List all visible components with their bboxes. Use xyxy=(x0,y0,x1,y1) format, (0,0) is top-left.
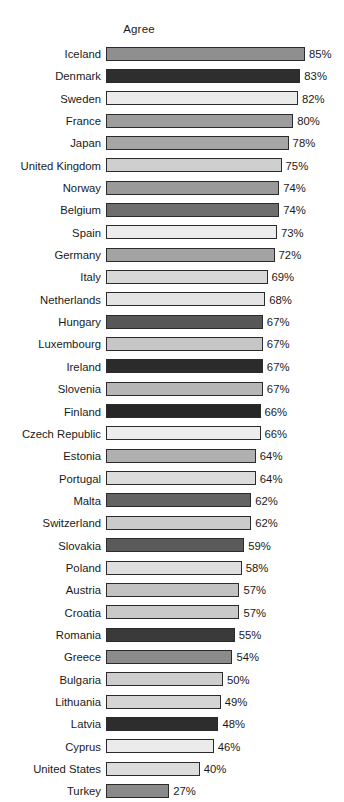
bar-value-label: 57% xyxy=(239,579,266,601)
bar-category-label: Czech Republic xyxy=(0,423,101,445)
bar-row: Hungary67% xyxy=(0,311,344,333)
bar-track xyxy=(106,762,200,776)
bar-fill xyxy=(106,583,239,597)
bar-track xyxy=(106,203,279,217)
bar-value-label: 58% xyxy=(242,557,269,579)
bar-row: Portugal64% xyxy=(0,468,344,490)
bar-row: Iceland85% xyxy=(0,43,344,65)
bar-fill xyxy=(106,181,279,195)
bar-fill xyxy=(106,203,279,217)
bar-category-label: Switzerland xyxy=(0,512,101,534)
bar-value-label: 46% xyxy=(214,736,241,758)
bar-category-label: Finland xyxy=(0,401,101,423)
bar-value-label: 64% xyxy=(256,468,283,490)
bar-value-label: 48% xyxy=(218,713,245,735)
bar-category-label: Sweden xyxy=(0,88,101,110)
bar-track xyxy=(106,628,235,642)
bar-fill xyxy=(106,672,223,686)
bar-value-label: 72% xyxy=(275,244,302,266)
bar-category-label: Italy xyxy=(0,266,101,288)
bar-category-label: Germany xyxy=(0,244,101,266)
bar-fill xyxy=(106,471,256,485)
bar-fill xyxy=(106,382,263,396)
bar-track xyxy=(106,181,279,195)
bar-track xyxy=(106,359,263,373)
bar-row: Ireland67% xyxy=(0,356,344,378)
bar-value-label: 78% xyxy=(289,132,316,154)
bar-value-label: 74% xyxy=(279,177,306,199)
bar-row: Japan78% xyxy=(0,132,344,154)
bar-category-label: Hungary xyxy=(0,311,101,333)
bar-row: Switzerland62% xyxy=(0,512,344,534)
bar-track xyxy=(106,672,223,686)
bar-value-label: 67% xyxy=(263,378,290,400)
bar-category-label: Poland xyxy=(0,557,101,579)
bar-fill xyxy=(106,650,232,664)
bar-row: Netherlands68% xyxy=(0,289,344,311)
bar-track xyxy=(106,717,218,731)
bar-value-label: 67% xyxy=(263,333,290,355)
bar-fill xyxy=(106,47,305,61)
bar-value-label: 62% xyxy=(251,490,278,512)
bar-category-label: Greece xyxy=(0,646,101,668)
bar-value-label: 66% xyxy=(261,423,288,445)
bar-category-label: Spain xyxy=(0,222,101,244)
chart-plot-area: Iceland85%Denmark83%Sweden82%France80%Ja… xyxy=(0,43,344,802)
bar-value-label: 66% xyxy=(261,401,288,423)
bar-value-label: 40% xyxy=(200,758,227,780)
bar-category-label: Belgium xyxy=(0,199,101,221)
bar-value-label: 69% xyxy=(268,266,295,288)
bar-category-label: Slovakia xyxy=(0,535,101,557)
bar-fill xyxy=(106,449,256,463)
bar-track xyxy=(106,739,214,753)
bar-track xyxy=(106,605,239,619)
bar-track xyxy=(106,784,169,798)
bar-row: United Kingdom75% xyxy=(0,155,344,177)
bar-value-label: 54% xyxy=(232,646,259,668)
chart-title: Agree xyxy=(0,23,344,35)
bar-row: Spain73% xyxy=(0,222,344,244)
bar-value-label: 75% xyxy=(282,155,309,177)
bar-fill xyxy=(106,784,169,798)
bar-category-label: Croatia xyxy=(0,602,101,624)
bar-fill xyxy=(106,762,200,776)
bar-fill xyxy=(106,270,268,284)
bar-value-label: 83% xyxy=(300,65,327,87)
bar-row: Finland66% xyxy=(0,401,344,423)
bar-track xyxy=(106,114,293,128)
bar-fill xyxy=(106,69,300,83)
bar-row: Greece54% xyxy=(0,646,344,668)
bar-category-label: Turkey xyxy=(0,780,101,802)
bar-row: Lithuania49% xyxy=(0,691,344,713)
bar-track xyxy=(106,270,268,284)
bar-row: Denmark83% xyxy=(0,65,344,87)
bar-track xyxy=(106,248,275,262)
bar-fill xyxy=(106,561,242,575)
bar-fill xyxy=(106,359,263,373)
bar-row: Sweden82% xyxy=(0,88,344,110)
bar-fill xyxy=(106,91,298,105)
bar-category-label: Malta xyxy=(0,490,101,512)
bar-category-label: Norway xyxy=(0,177,101,199)
bar-track xyxy=(106,404,261,418)
bar-fill xyxy=(106,337,263,351)
bar-track xyxy=(106,650,232,664)
bar-track xyxy=(106,69,300,83)
bar-fill xyxy=(106,717,218,731)
bar-fill xyxy=(106,516,251,530)
bar-category-label: Estonia xyxy=(0,445,101,467)
bar-category-label: Netherlands xyxy=(0,289,101,311)
bar-category-label: Ireland xyxy=(0,356,101,378)
bar-value-label: 64% xyxy=(256,445,283,467)
bar-fill xyxy=(106,538,244,552)
bar-value-label: 73% xyxy=(277,222,304,244)
bar-row: Norway74% xyxy=(0,177,344,199)
bar-fill xyxy=(106,426,261,440)
bar-row: Bulgaria50% xyxy=(0,669,344,691)
bar-fill xyxy=(106,136,289,150)
bar-value-label: 55% xyxy=(235,624,262,646)
bar-category-label: Romania xyxy=(0,624,101,646)
bar-row: Latvia48% xyxy=(0,713,344,735)
bar-track xyxy=(106,315,263,329)
bar-value-label: 68% xyxy=(265,289,292,311)
